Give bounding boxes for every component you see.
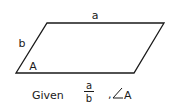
- parallelogram-shape: [16, 23, 164, 73]
- caption-separator: ,: [108, 88, 112, 101]
- fraction-numerator: a: [86, 80, 92, 91]
- side-label-a: a: [92, 9, 99, 22]
- fraction-denominator: b: [86, 93, 92, 104]
- caption-angle-label: A: [124, 89, 132, 102]
- parallelogram-figure: a b A Given a b , A: [0, 0, 174, 111]
- caption-given: Given: [32, 89, 64, 102]
- parallelogram-diagram: a b A Given a b , A: [0, 0, 174, 111]
- side-label-b: b: [19, 37, 26, 50]
- angle-icon: [113, 88, 123, 98]
- angle-label-a: A: [29, 60, 37, 73]
